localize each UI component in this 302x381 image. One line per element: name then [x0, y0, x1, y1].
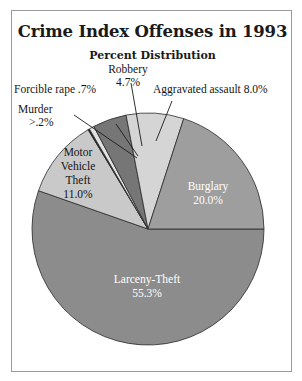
chart-figure: Crime Index Offenses in 1993 Percent Dis… — [11, 10, 292, 372]
pie-chart: MotorVehicleTheft11.0%Burglary20.0%Larce… — [12, 11, 293, 373]
